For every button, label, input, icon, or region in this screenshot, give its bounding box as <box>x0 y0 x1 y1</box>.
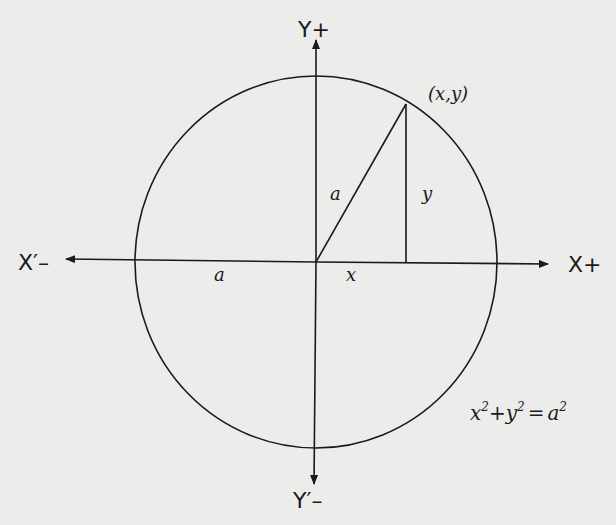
x-segment-label: x <box>346 264 356 285</box>
circle-equation: x2+y2=a2 <box>470 400 567 425</box>
y-negative-label: Y′– <box>292 488 322 513</box>
eq-y-exp: 2 <box>516 400 525 414</box>
radius-label: a <box>330 183 341 204</box>
x-negative-label: X′– <box>18 250 49 275</box>
eq-x-exp: 2 <box>480 400 489 414</box>
eq-plus: + <box>489 401 506 425</box>
eq-x: x <box>470 401 481 425</box>
x-positive-label: X+ <box>568 252 602 277</box>
point-label: (x,y) <box>428 83 468 104</box>
svg-text:x2+y2=a2: x2+y2=a2 <box>470 400 567 425</box>
eq-a: a <box>547 401 559 425</box>
circle-diagram: Y+ Y′– X′– X+ (x,y) a y a x x2+y2=a2 <box>0 0 616 525</box>
eq-a-exp: 2 <box>558 400 567 414</box>
eq-y: y <box>505 401 518 425</box>
eq-equals: = <box>528 401 545 425</box>
axis-radius-label: a <box>214 264 225 285</box>
y-axis-negative <box>314 262 316 484</box>
y-segment-label: y <box>421 183 433 204</box>
y-positive-label: Y+ <box>297 17 330 42</box>
x-axis-negative <box>66 259 316 262</box>
